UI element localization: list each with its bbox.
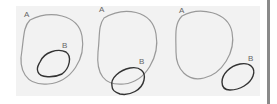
set-b-label: B <box>62 41 67 50</box>
set-b-label: B <box>248 54 253 63</box>
set-a-label: A <box>99 5 105 14</box>
panel-overlap: A B <box>98 5 157 94</box>
set-a-label: A <box>24 10 30 19</box>
panel-subset: A B <box>21 10 83 84</box>
set-a-label: A <box>179 6 185 15</box>
set-a-shape <box>98 11 157 84</box>
set-b-label: B <box>139 57 144 66</box>
set-b-shape <box>37 50 69 76</box>
set-b-shape <box>112 68 145 95</box>
set-a-shape <box>21 15 83 84</box>
venn-diagrams: A B A B A B <box>0 0 277 104</box>
set-a-shape <box>176 11 233 79</box>
panel-disjoint: A B <box>176 6 254 90</box>
set-b-shape <box>222 64 254 90</box>
